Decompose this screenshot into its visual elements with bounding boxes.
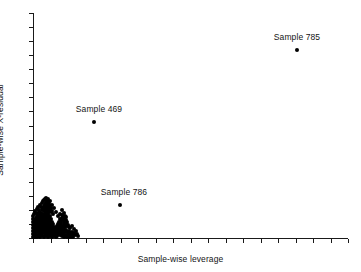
data-point	[72, 227, 76, 231]
data-point	[39, 205, 43, 209]
x-axis-tick	[173, 239, 174, 243]
x-axis-tick	[191, 239, 192, 243]
x-axis-tick	[68, 239, 69, 243]
y-axis-spine	[33, 13, 34, 239]
y-axis-tick	[29, 168, 33, 169]
scatter-plot-figure: Sample 785Sample 469Sample 786 Sample-wi…	[0, 0, 361, 272]
y-axis-tick	[29, 196, 33, 197]
y-axis-tick	[29, 83, 33, 84]
point-label: Sample 785	[274, 32, 320, 42]
x-axis-tick	[331, 239, 332, 243]
data-point	[76, 234, 80, 238]
data-point	[64, 215, 68, 219]
y-axis-tick	[29, 111, 33, 112]
point-label: Sample 469	[76, 104, 122, 114]
x-axis-tick	[156, 239, 157, 243]
x-axis-tick	[33, 239, 34, 243]
y-axis-tick	[29, 140, 33, 141]
outlier-point	[92, 120, 96, 124]
x-axis-tick	[348, 239, 349, 243]
point-label: Sample 786	[101, 187, 147, 197]
x-axis-tick	[103, 239, 104, 243]
x-axis-tick	[51, 239, 52, 243]
x-axis-tick	[243, 239, 244, 243]
x-axis-tick	[313, 239, 314, 243]
x-axis-tick	[86, 239, 87, 243]
y-axis-tick	[29, 154, 33, 155]
x-axis-tick	[278, 239, 279, 243]
y-axis-label: Sample-wise X-residual	[0, 84, 5, 175]
y-axis-tick	[29, 41, 33, 42]
x-axis-tick	[296, 239, 297, 243]
x-axis-tick	[121, 239, 122, 243]
y-axis-tick	[29, 69, 33, 70]
y-axis-tick	[29, 182, 33, 183]
x-axis-tick	[226, 239, 227, 243]
y-axis-tick	[29, 27, 33, 28]
x-axis-tick	[208, 239, 209, 243]
y-axis-tick	[29, 126, 33, 127]
data-point	[51, 222, 55, 226]
y-axis-tick	[29, 97, 33, 98]
x-axis-tick	[261, 239, 262, 243]
y-axis-tick	[29, 13, 33, 14]
y-axis-tick	[29, 55, 33, 56]
x-axis-tick	[138, 239, 139, 243]
outlier-point	[118, 203, 122, 207]
outlier-point	[295, 48, 299, 52]
x-axis-label: Sample-wise leverage	[0, 254, 361, 264]
